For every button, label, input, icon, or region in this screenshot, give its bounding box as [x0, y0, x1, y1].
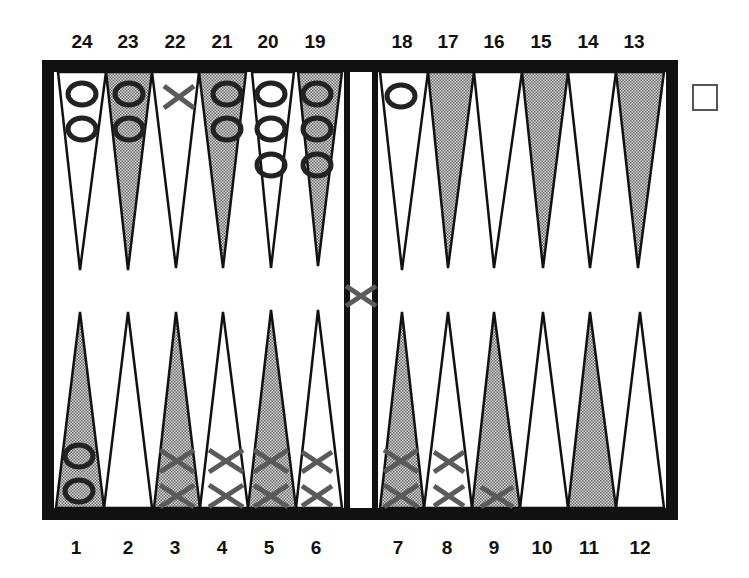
point-label-4: 4 [202, 538, 242, 558]
point-label-3: 3 [155, 538, 195, 558]
point-label-9: 9 [474, 538, 514, 558]
point-label-5: 5 [249, 538, 289, 558]
backgammon-board [0, 0, 749, 578]
point-label-8: 8 [427, 538, 467, 558]
point-label-2: 2 [108, 538, 148, 558]
point-label-11: 11 [569, 538, 609, 558]
point-label-6: 6 [296, 538, 336, 558]
point-label-12: 12 [620, 538, 660, 558]
point-label-7: 7 [378, 538, 418, 558]
point-label-1: 1 [56, 538, 96, 558]
doubling-cube[interactable] [692, 84, 718, 111]
point-label-10: 10 [522, 538, 562, 558]
